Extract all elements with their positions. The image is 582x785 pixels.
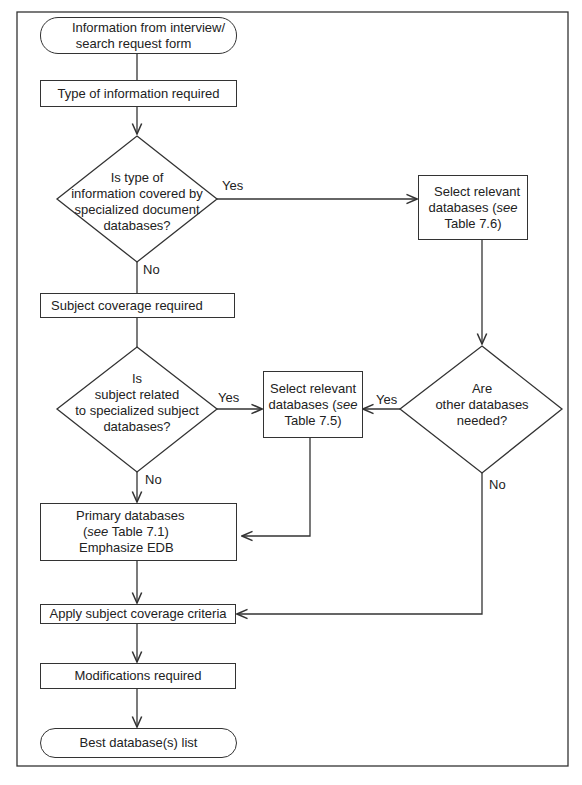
select-75-line2: databases (see	[269, 397, 358, 413]
decision-doc-line3: specialized document	[67, 202, 207, 218]
decision-other-no-label: No	[489, 477, 506, 492]
select-76-line3: Table 7.6)	[444, 216, 501, 232]
decision-subj-text: Is subject related to specialized subjec…	[62, 371, 212, 435]
decision-doc-yes-label: Yes	[222, 178, 243, 193]
primary-line2: (see Table 7.1)	[76, 524, 169, 540]
select-76-line1: Select relevant	[426, 184, 520, 200]
decision-subj-yes-label: Yes	[218, 390, 239, 405]
decision-other-line1: Are	[420, 381, 544, 397]
decision-doc-no-label: No	[143, 262, 160, 277]
modifications-box: Modifications required	[40, 663, 236, 689]
primary-line1: Primary databases	[76, 508, 184, 524]
start-line1: Information from interview/	[52, 20, 225, 36]
primary-databases-box: Primary databases (see Table 7.1) Emphas…	[40, 503, 237, 561]
decision-subj-line2: subject related	[62, 387, 212, 403]
start-terminal: Information from interview/ search reque…	[40, 17, 237, 54]
decision-subj-line3: to specialized subject	[62, 403, 212, 419]
primary-line3: Emphasize EDB	[76, 540, 174, 556]
decision-other-line3: needed?	[420, 413, 544, 429]
select-databases-7-6-box: Select relevant databases (see Table 7.6…	[418, 175, 528, 240]
select-76-line2: databases (see	[429, 200, 518, 216]
subject-coverage-label: Subject coverage required	[51, 298, 203, 314]
type-of-information-label: Type of information required	[58, 86, 220, 102]
decision-subj-no-label: No	[145, 472, 162, 487]
apply-criteria-box: Apply subject coverage criteria	[40, 604, 236, 624]
decision-subj-line1: Is	[62, 371, 212, 387]
subject-coverage-box: Subject coverage required	[40, 293, 235, 318]
end-label: Best database(s) list	[80, 735, 198, 751]
select-75-line3: Table 7.5)	[284, 413, 341, 429]
decision-doc-line4: databases?	[67, 218, 207, 234]
start-line2: search request form	[76, 36, 192, 52]
modifications-label: Modifications required	[74, 668, 201, 684]
decision-doc-line1: Is type of	[67, 170, 207, 186]
decision-subj-line4: databases?	[62, 419, 212, 435]
end-terminal: Best database(s) list	[40, 728, 237, 758]
type-of-information-box: Type of information required	[40, 80, 237, 107]
decision-doc-line2: information covered by	[67, 186, 207, 202]
decision-other-line2: other databases	[420, 397, 544, 413]
decision-doc-text: Is type of information covered by specia…	[67, 170, 207, 234]
apply-criteria-label: Apply subject coverage criteria	[49, 606, 226, 622]
select-databases-7-5-box: Select relevant databases (see Table 7.5…	[263, 371, 363, 438]
select-75-line1: Select relevant	[270, 381, 356, 397]
decision-other-yes-label: Yes	[376, 392, 397, 407]
decision-other-text: Are other databases needed?	[420, 381, 544, 429]
